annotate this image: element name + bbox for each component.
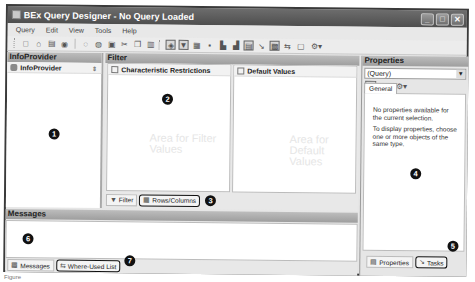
messages-tabs: ▩ Messages ⇆ Where-Used List 7 <box>7 259 135 272</box>
filter-area-watermark: Area for Filter Values <box>149 133 219 156</box>
callout-badge-1: 1 <box>49 128 60 139</box>
paste-icon[interactable]: ▥ <box>146 39 156 49</box>
rows-columns-icon: ▦ <box>143 196 150 204</box>
callout-badge-6: 6 <box>22 233 33 244</box>
toolbar-grip[interactable] <box>14 38 16 48</box>
characteristic-restrictions-header: Characteristic Restrictions <box>108 64 230 76</box>
new-icon[interactable]: □ <box>21 38 31 48</box>
undo-icon[interactable]: ◌ <box>81 39 91 49</box>
properties-content: No properties available for the current … <box>362 93 466 252</box>
callout-badge-7: 7 <box>124 255 135 266</box>
copy-icon[interactable]: ❐ <box>133 39 143 49</box>
cube-icon <box>10 64 17 71</box>
tab-general[interactable]: General <box>364 83 397 94</box>
tab-rows-columns[interactable]: ▦ Rows/Columns <box>139 194 200 207</box>
save-all-icon[interactable]: ◉ <box>60 39 70 49</box>
messages-icon[interactable]: ▩ <box>270 41 280 51</box>
default-values-title: Default Values <box>247 67 295 75</box>
properties-selected-value: (Query) <box>367 70 391 77</box>
callout-badge-3: 3 <box>205 195 216 206</box>
open-icon[interactable]: ⌂ <box>34 38 44 48</box>
characteristic-restrictions-area[interactable]: Characteristic Restrictions 2 Area for F… <box>106 63 231 192</box>
no-properties-message: No properties available for the current … <box>373 106 459 122</box>
tab-properties-label: Properties <box>379 258 409 265</box>
default-values-area[interactable]: Default Values Area for Default Values <box>232 64 357 193</box>
exceptions-icon[interactable]: ▟ <box>231 40 241 50</box>
infoprovider-row[interactable]: InfoProvider ⇕ <box>7 62 101 74</box>
tab-tasks[interactable]: ↘ Tasks <box>415 256 448 268</box>
minimize-button[interactable]: _ <box>421 13 434 25</box>
properties-object-select[interactable]: (Query) ▼ <box>364 68 466 80</box>
infoprovider-panel: InfoProvider InfoProvider ⇕ 1 <box>6 52 104 208</box>
app-icon <box>12 10 21 19</box>
cells-icon[interactable]: ▪ <box>205 40 215 50</box>
tab-messages[interactable]: ▩ Messages <box>7 259 54 271</box>
filter-icon[interactable]: ▼ <box>179 40 189 50</box>
where-used-icon: ⇆ <box>60 262 66 270</box>
technical-names-icon[interactable]: ⚙▾ <box>309 41 325 51</box>
tab-messages-label: Messages <box>20 262 50 269</box>
window-title: BEx Query Designer - No Query Loaded <box>24 10 194 22</box>
filter-tabs: ▼ Filter ▦ Rows/Columns 3 <box>106 193 216 207</box>
characteristic-restrictions-title: Characteristic Restrictions <box>121 66 210 74</box>
menu-help[interactable]: Help <box>122 27 136 34</box>
menu-view[interactable]: View <box>69 27 84 34</box>
callout-badge-2: 2 <box>162 94 173 105</box>
filter-panel: Filter Characteristic Restrictions 2 Are… <box>104 53 360 211</box>
messages-content: 6 <box>5 220 357 262</box>
redo-icon[interactable]: ◍ <box>94 39 104 49</box>
default-area-watermark: Area for Default Values <box>289 134 359 168</box>
tasks-icon[interactable]: ↘ <box>257 41 267 51</box>
workspace: InfoProvider InfoProvider ⇕ 1 Filter Cha… <box>5 52 466 275</box>
where-used-icon[interactable]: ⇆ <box>283 41 293 51</box>
properties-icon: ▤ <box>370 258 377 266</box>
chevron-down-icon[interactable]: ▼ <box>456 70 465 79</box>
window-controls: _ □ ✕ <box>421 13 467 25</box>
messages-panel: Messages 6 ▩ Messages ⇆ Where-Used List … <box>5 209 358 276</box>
check-icon[interactable]: ▣ <box>107 39 117 49</box>
callout-badge-5: 5 <box>447 241 458 252</box>
rows-columns-icon[interactable]: ▦ <box>192 40 202 50</box>
toolbar-grip[interactable] <box>159 40 161 50</box>
figure-caption: Figure <box>4 274 21 280</box>
properties-panel: Properties (Query) ▼ ✎ ▤ ⚙▾ General No p… <box>359 56 468 277</box>
callout-badge-4: 4 <box>410 168 421 179</box>
properties-icon[interactable]: ▤ <box>244 40 254 50</box>
toolbar-separator <box>75 39 76 49</box>
tab-properties[interactable]: ▤ Properties <box>366 256 413 268</box>
display-properties-hint: To display properties, choose one or mor… <box>373 125 459 148</box>
tasks-icon: ↘ <box>419 258 425 266</box>
properties-header: Properties <box>362 56 468 67</box>
tab-filter[interactable]: ▼ Filter <box>106 194 138 206</box>
spinner-icon[interactable]: ⇕ <box>92 64 97 71</box>
tab-rows-columns-label: Rows/Columns <box>152 197 196 204</box>
restrictions-icon <box>111 66 118 73</box>
menu-query[interactable]: Query <box>16 26 35 33</box>
filter-icon: ▼ <box>110 196 117 203</box>
infoprovider-header: InfoProvider <box>7 52 101 63</box>
default-values-header: Default Values <box>234 65 356 77</box>
properties-bottom-tabs: ▤ Properties ↘ Tasks <box>366 256 447 269</box>
save-icon[interactable]: ▤ <box>47 38 57 48</box>
menu-tools[interactable]: Tools <box>95 27 111 34</box>
tab-tasks-label: Tasks <box>427 259 444 266</box>
document-icon[interactable]: ▢ <box>296 41 306 51</box>
default-values-icon <box>237 67 244 74</box>
close-button[interactable]: ✕ <box>451 13 464 25</box>
infoprovider-label: InfoProvider <box>20 64 61 71</box>
tab-where-used-label: Where-Used List <box>68 262 116 270</box>
infoprovider-icon[interactable]: ◈ <box>166 40 176 50</box>
cut-icon[interactable]: ✂ <box>120 39 130 49</box>
app-window: BEx Query Designer - No Query Loaded _ □… <box>3 4 469 277</box>
maximize-button[interactable]: □ <box>436 13 449 25</box>
conditions-icon[interactable]: ▙ <box>218 40 228 50</box>
messages-icon: ▩ <box>11 261 18 269</box>
tab-filter-label: Filter <box>119 196 134 203</box>
menu-edit[interactable]: Edit <box>46 26 58 33</box>
tab-where-used-list[interactable]: ⇆ Where-Used List <box>56 260 121 273</box>
